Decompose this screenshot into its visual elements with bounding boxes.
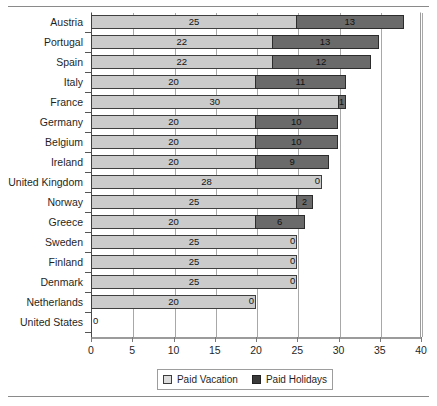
- bar-value-label-zero: 0: [290, 276, 297, 286]
- stacked-bar[interactable]: 2213: [91, 35, 379, 49]
- legend-item-vacation[interactable]: Paid Vacation: [163, 374, 238, 385]
- bar-row: 0: [91, 312, 421, 332]
- legend-item-holidays[interactable]: Paid Holidays: [252, 374, 327, 385]
- bar-value-label: 25: [189, 197, 200, 207]
- stacked-bar-chart: AustriaPortugalSpainItalyFranceGermanyBe…: [0, 12, 437, 357]
- bar-value-label-zero: 0: [290, 256, 297, 266]
- bar-segment-paid-vacation[interactable]: 30: [91, 95, 339, 109]
- bar-segment-paid-vacation[interactable]: 20: [91, 75, 256, 89]
- bar-segment-paid-holidays[interactable]: 9: [255, 155, 329, 169]
- category-label-united-states: United States: [0, 312, 88, 332]
- stacked-bar[interactable]: 2513: [91, 15, 404, 29]
- stacked-bar[interactable]: 25: [91, 255, 297, 269]
- bar-row: 2010: [91, 112, 421, 132]
- bar-segment-paid-holidays[interactable]: 13: [272, 35, 379, 49]
- category-label-united-kingdom: United Kingdom: [0, 172, 88, 192]
- bar-segment-paid-holidays[interactable]: 12: [272, 55, 371, 69]
- bar-row: 2011: [91, 72, 421, 92]
- gridline: [422, 13, 423, 337]
- bar-value-label: 9: [289, 157, 294, 167]
- bar-segment-paid-holidays[interactable]: 6: [255, 215, 305, 229]
- legend-swatch-vacation: [163, 375, 172, 384]
- x-axis-tick-label: 5: [129, 344, 135, 356]
- bar-segment-paid-vacation[interactable]: 25: [91, 195, 297, 209]
- bar-value-label-zero: 0: [290, 236, 297, 246]
- bar-segment-paid-holidays[interactable]: 11: [255, 75, 346, 89]
- bar-row: 250: [91, 272, 421, 292]
- x-axis-tick-label: 15: [209, 344, 221, 356]
- bar-value-label: 22: [176, 37, 187, 47]
- stacked-bar[interactable]: 2212: [91, 55, 371, 69]
- x-axis-tick: [421, 337, 422, 342]
- stacked-bar[interactable]: 20: [91, 295, 256, 309]
- x-axis-tick: [132, 337, 133, 342]
- bar-row: 301: [91, 92, 421, 112]
- bottom-divider: [8, 396, 429, 397]
- bar-segment-paid-vacation[interactable]: 25: [91, 15, 297, 29]
- bar-row: 280: [91, 172, 421, 192]
- bar-value-label: 20: [168, 157, 179, 167]
- bar-segment-paid-vacation[interactable]: 20: [91, 295, 256, 309]
- bar-row: 200: [91, 292, 421, 312]
- bar-value-label: 25: [189, 277, 200, 287]
- stacked-bar[interactable]: 25: [91, 235, 297, 249]
- x-axis-tick-label: 35: [374, 344, 386, 356]
- x-axis-tick-label: 10: [168, 344, 180, 356]
- bar-row: 2212: [91, 52, 421, 72]
- bar-value-label: 13: [320, 37, 331, 47]
- bar-row: 2513: [91, 12, 421, 32]
- chart-legend: Paid VacationPaid Holidays: [157, 369, 333, 390]
- stacked-bar[interactable]: 2010: [91, 135, 338, 149]
- x-axis-tick-label: 30: [333, 344, 345, 356]
- stacked-bar[interactable]: 2011: [91, 75, 346, 89]
- bar-segment-paid-holidays[interactable]: 13: [296, 15, 403, 29]
- category-label-france: France: [0, 92, 88, 112]
- bar-value-label: 10: [291, 137, 302, 147]
- bar-value-label: 20: [168, 137, 179, 147]
- bar-value-label: 20: [168, 297, 179, 307]
- bar-value-label: 25: [189, 17, 200, 27]
- x-axis-tick-label: 40: [415, 344, 427, 356]
- bar-segment-paid-vacation[interactable]: 28: [91, 175, 322, 189]
- y-axis-tick: [85, 332, 91, 333]
- bar-segment-paid-vacation[interactable]: 20: [91, 135, 256, 149]
- bar-segment-paid-vacation[interactable]: 25: [91, 235, 297, 249]
- stacked-bar[interactable]: 252: [91, 195, 313, 209]
- bar-row: 209: [91, 152, 421, 172]
- stacked-bar[interactable]: 28: [91, 175, 322, 189]
- bar-segment-paid-vacation[interactable]: 20: [91, 115, 256, 129]
- bar-segment-paid-vacation[interactable]: 20: [91, 155, 256, 169]
- bar-segment-paid-vacation[interactable]: 25: [91, 275, 297, 289]
- bar-value-label: 22: [176, 57, 187, 67]
- category-label-sweden: Sweden: [0, 232, 88, 252]
- x-axis-tick-label: 25: [291, 344, 303, 356]
- bar-value-label: 20: [168, 77, 179, 87]
- bar-segment-paid-vacation[interactable]: 25: [91, 255, 297, 269]
- bar-segment-paid-vacation[interactable]: 22: [91, 35, 273, 49]
- x-axis-tick: [380, 337, 381, 342]
- bar-value-label: 12: [316, 57, 327, 67]
- stacked-bar[interactable]: 206: [91, 215, 305, 229]
- x-axis-tick: [297, 337, 298, 342]
- bar-segment-paid-holidays[interactable]: 10: [255, 135, 338, 149]
- x-axis-tick: [174, 337, 175, 342]
- stacked-bar[interactable]: 25: [91, 275, 297, 289]
- stacked-bar[interactable]: 301: [91, 95, 346, 109]
- stacked-bar[interactable]: 209: [91, 155, 329, 169]
- bar-segment-paid-vacation[interactable]: 20: [91, 215, 256, 229]
- bar-segment-paid-vacation[interactable]: 22: [91, 55, 273, 69]
- legend-swatch-holidays: [252, 375, 261, 384]
- bar-row: 252: [91, 192, 421, 212]
- legend-label: Paid Holidays: [266, 374, 327, 385]
- x-axis-tick: [215, 337, 216, 342]
- category-label-belgium: Belgium: [0, 132, 88, 152]
- bar-segment-paid-holidays[interactable]: 10: [255, 115, 338, 129]
- category-axis-labels: AustriaPortugalSpainItalyFranceGermanyBe…: [0, 12, 88, 332]
- bar-segment-paid-holidays[interactable]: 2: [296, 195, 313, 209]
- category-label-denmark: Denmark: [0, 272, 88, 292]
- stacked-bar[interactable]: 2010: [91, 115, 338, 129]
- bar-value-label-zero: 0: [315, 176, 322, 186]
- bar-value-label: 1: [339, 98, 344, 107]
- bar-segment-paid-holidays[interactable]: 1: [338, 95, 346, 109]
- category-label-norway: Norway: [0, 192, 88, 212]
